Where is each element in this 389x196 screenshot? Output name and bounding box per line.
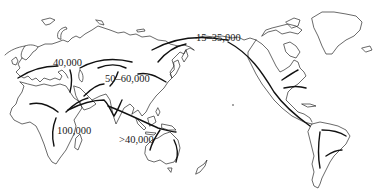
route-north-america-1: [282, 70, 298, 80]
coast-arctic-archipelago: [262, 24, 302, 36]
label-africa-date: 100,000: [57, 126, 91, 137]
label-australia-date: >40,000: [119, 135, 154, 146]
coast-new-zealand: [196, 160, 207, 174]
coast-greenland: [312, 12, 362, 54]
route-north-america-2: [284, 87, 306, 89]
route-siberia: [98, 65, 126, 68]
label-asia-date: 50–60,000: [105, 74, 150, 85]
route-south-america-south: [319, 132, 321, 168]
route-to-europe: [18, 66, 58, 78]
migration-map: 40,000 50–60,000 15–35,000 100,000 >40,0…: [0, 0, 389, 196]
coast-eurasia-north: [5, 26, 194, 55]
coast-philippines: [156, 108, 160, 116]
coast-west-north-america: [248, 40, 312, 124]
coast-south-america: [308, 122, 350, 188]
coast-kamchatka: [182, 50, 188, 62]
label-beringia-date: 15–35,000: [196, 33, 241, 44]
coast-baffin: [286, 18, 300, 28]
coast-hudson-bay: [284, 42, 300, 58]
world-map-svg: [0, 0, 389, 196]
coast-scandinavia: [21, 46, 38, 60]
coast-severnaya: [96, 20, 104, 25]
coast-new-siberian: [137, 29, 145, 32]
coast-japan: [170, 60, 180, 78]
pacific-dot: [232, 104, 234, 106]
coast-novaya-zemlya: [57, 27, 67, 39]
coast-britain: [12, 57, 18, 65]
route-africa-south: [53, 118, 56, 146]
coast-svalbard: [42, 18, 55, 25]
coast-iceland: [362, 46, 372, 52]
route-mideast-india: [84, 84, 104, 96]
coast-south-asia: [92, 94, 134, 124]
coast-tasmania: [168, 168, 172, 172]
label-europe-date: 40,000: [53, 58, 82, 69]
coast-caspian: [79, 70, 83, 82]
route-australia-east: [174, 140, 177, 162]
route-africa-west: [30, 103, 58, 112]
coast-africa: [10, 82, 82, 164]
coast-cuba: [302, 104, 316, 107]
route-europe-north: [70, 70, 72, 92]
route-south-america-east: [322, 130, 346, 136]
route-south-america-mid: [326, 150, 342, 156]
